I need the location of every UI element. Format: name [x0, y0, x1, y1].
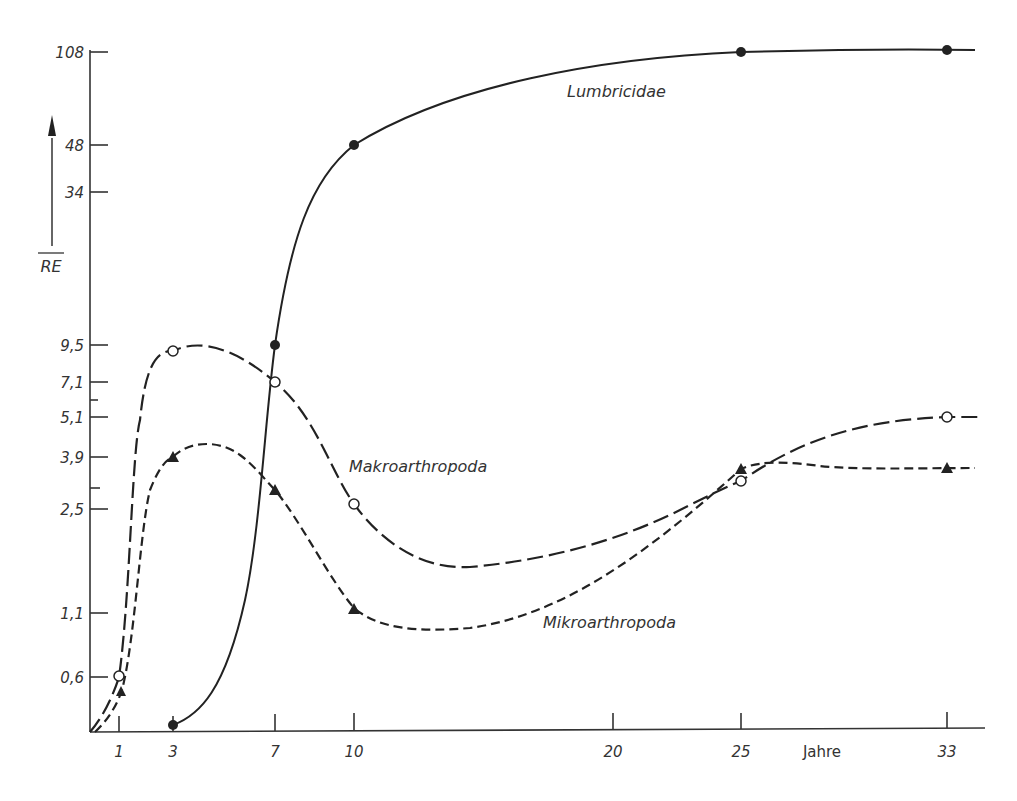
x-axis	[90, 728, 985, 732]
open-circle-marker	[270, 377, 280, 387]
filled-circle-marker	[168, 720, 178, 730]
series-makroarthropoda-line	[90, 346, 980, 732]
y-tick-label: 3,9	[60, 449, 84, 467]
series-makroarthropoda-markers	[114, 346, 952, 681]
filled-circle-marker	[270, 340, 280, 350]
open-circle-marker	[114, 671, 124, 681]
filled-triangle-marker	[116, 686, 126, 696]
y-tick-labels: 108 48 34 9,5 7,1 5,1 3,9 2,5 1,1 0,6	[55, 44, 84, 687]
open-circle-marker	[349, 499, 359, 509]
filled-triangle-marker	[735, 463, 747, 474]
x-tick-label: 33	[937, 743, 956, 761]
y-tick-label: 2,5	[60, 501, 84, 519]
series-label-makroarthropoda: Makroarthropoda	[349, 457, 487, 476]
y-tick-label: 0,6	[60, 669, 84, 687]
open-circle-marker	[942, 412, 952, 422]
y-tick-label: 9,5	[60, 337, 84, 355]
filled-triangle-marker	[348, 603, 360, 614]
series-mikroarthropoda-line	[95, 444, 975, 732]
filled-circle-marker	[736, 47, 746, 57]
x-tick-label: 7	[270, 743, 280, 761]
x-tick-label: 1	[114, 743, 124, 761]
y-axis-arrow-icon	[48, 115, 56, 246]
x-axis-label: Jahre	[802, 743, 841, 761]
y-tick-label: 48	[65, 137, 84, 155]
series-label-lumbricidae: Lumbricidae	[567, 82, 666, 101]
x-tick-label: 10	[344, 743, 363, 761]
x-tick-label: 25	[731, 743, 750, 761]
series-label-mikroarthropoda: Mikroarthropoda	[543, 613, 676, 632]
filled-circle-marker	[942, 45, 952, 55]
open-circle-marker	[168, 346, 178, 356]
y-tick-label: 7,1	[60, 374, 84, 392]
x-tick-label: 3	[168, 743, 178, 761]
y-tick-label: 108	[55, 44, 84, 62]
y-tick-label: 1,1	[60, 605, 84, 623]
y-tick-label: 5,1	[60, 409, 84, 427]
open-circle-marker	[736, 476, 746, 486]
filled-circle-marker	[349, 140, 359, 150]
axes	[90, 50, 985, 732]
y-axis-label: RE	[40, 257, 62, 276]
series-mikroarthropoda-markers	[116, 451, 953, 696]
x-tick-label: 20	[603, 743, 622, 761]
chart: 108 48 34 9,5 7,1 5,1 3,9 2,5 1,1 0,6 1 …	[0, 0, 1017, 801]
y-tick-label: 34	[65, 184, 84, 202]
